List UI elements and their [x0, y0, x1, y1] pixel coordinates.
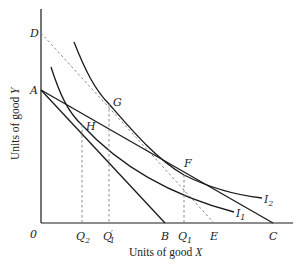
label-origin: 0: [30, 228, 37, 241]
indifference-curve-I1: [51, 67, 234, 212]
label-Q2: Q2: [76, 230, 90, 245]
label-A: A: [29, 84, 38, 97]
budget-line-AB: [41, 90, 165, 223]
x-axis-title: Units of good X: [129, 246, 203, 259]
label-E: E: [209, 230, 218, 243]
label-Q1: Q1: [178, 230, 192, 245]
budget-line-DE: [41, 33, 214, 223]
label-F: F: [183, 157, 192, 170]
label-B: B: [160, 230, 169, 243]
label-I2: I2: [263, 193, 273, 208]
y-axis-title: Units of good Y: [9, 86, 22, 160]
budget-line-AC: [41, 90, 273, 223]
label-I1: I1: [235, 207, 245, 222]
label-D: D: [29, 27, 39, 40]
indifference-curve-I2: [74, 42, 262, 198]
label-G: G: [113, 96, 122, 109]
label-C: C: [269, 230, 278, 243]
label-Q1-prime: Q′1: [103, 228, 115, 245]
indifference-diagram: D A G H F 0 B E C Q2 Q′1 Q1 I2 I1 Units …: [0, 0, 306, 270]
label-H: H: [85, 120, 96, 133]
